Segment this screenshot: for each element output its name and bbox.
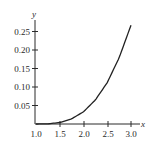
data-curve [36,25,131,124]
y-tick-label: 0.25 [14,27,30,37]
x-tick-label: 3.0 [125,129,137,139]
y-tick-label: 0.20 [14,45,30,55]
y-axis-label: y [31,9,36,19]
x-axis-label: x [140,119,145,129]
x-tick-label: 1.0 [30,129,42,139]
y-tick-label: 0.05 [14,101,30,111]
y-tick-label: 0.15 [14,64,30,74]
x-tick-label: 2.0 [78,129,90,139]
x-tick-label: 2.5 [102,129,114,139]
x-tick-label: 1.5 [54,129,66,139]
y-tick-label: 0.10 [14,82,30,92]
line-chart: y x 0.05 0.10 0.15 0.20 0.25 1.0 1.5 2.0… [0,0,152,145]
y-ticks: 0.05 0.10 0.15 0.20 0.25 [14,27,38,111]
